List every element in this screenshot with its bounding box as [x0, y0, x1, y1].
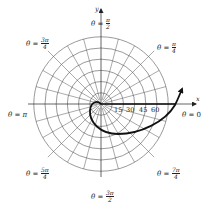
angle-label-7pi-over-4: θ = 7π4	[157, 167, 180, 181]
angle-label-3pi-over-2: θ = 3π2	[91, 190, 114, 204]
y-axis-label: y	[95, 6, 99, 13]
angle-label-5pi-over-4: θ = 5π4	[26, 167, 49, 181]
spiral-curve	[90, 89, 182, 134]
tick-label-30: 30	[126, 107, 134, 114]
angle-label-3pi-over-4: θ = 3π4	[26, 37, 49, 51]
angle-label-pi-over-2: θ = π2	[91, 17, 110, 31]
angle-label-pi-over-4: θ = π4	[157, 41, 176, 55]
angle-label-zero: θ = 0	[182, 112, 201, 119]
tick-label-45: 45	[139, 107, 147, 114]
x-axis-label: x	[196, 96, 200, 103]
tick-label-60: 60	[151, 107, 159, 114]
tick-label-15: 15	[114, 107, 122, 114]
angle-label-pi: θ = π	[8, 112, 27, 119]
